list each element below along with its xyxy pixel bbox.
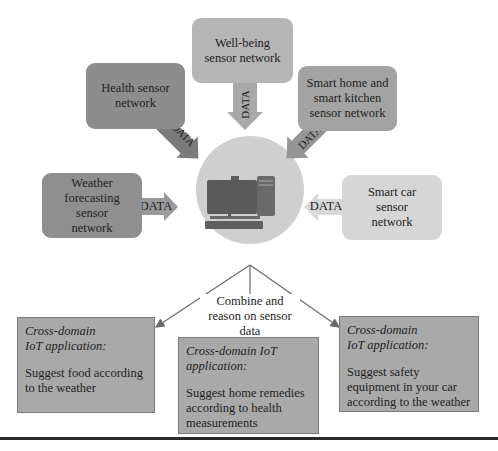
weather-sensor-network: Weather forecasting sensor network [42, 173, 142, 238]
bottom-rule [0, 437, 498, 440]
app-title: Cross-domain IoT application: [186, 344, 281, 374]
data-label-weather: DATA [138, 199, 174, 214]
app-car-safety: Cross-domain IoT application: Suggest sa… [339, 316, 479, 412]
app-home-remedies: Cross-domain IoT application: Suggest ho… [178, 337, 319, 434]
app-title: Cross-domain IoT application: [25, 324, 115, 354]
app-food-suggestion: Cross-domain IoT application: Suggest fo… [17, 317, 155, 413]
data-label-well-being: DATA [238, 85, 253, 125]
app-text: Suggest home remedies according to healt… [186, 386, 311, 431]
app-text: Suggest food according to the weather [25, 366, 147, 396]
weather-label: Weather forecasting sensor network [57, 176, 127, 236]
app-text: Suggest safety equipment in your car acc… [347, 365, 471, 410]
smart-car-sensor-network: Smart car sensor network [342, 175, 442, 240]
well-being-label: Well-being sensor network [203, 36, 283, 66]
smart-home-label: Smart home and smart kitchen sensor netw… [305, 76, 391, 121]
health-sensor-network: Health sensor network [86, 63, 185, 129]
app-title: Cross-domain IoT application: [347, 323, 437, 353]
smart-car-label: Smart car sensor network [356, 185, 428, 230]
data-label-smart-car: DATA [308, 199, 344, 214]
combine-label: Combine and reason on sensor data [200, 294, 300, 339]
health-label: Health sensor network [98, 81, 174, 111]
well-being-sensor-network: Well-being sensor network [192, 18, 293, 83]
smart-home-sensor-network: Smart home and smart kitchen sensor netw… [298, 66, 397, 131]
